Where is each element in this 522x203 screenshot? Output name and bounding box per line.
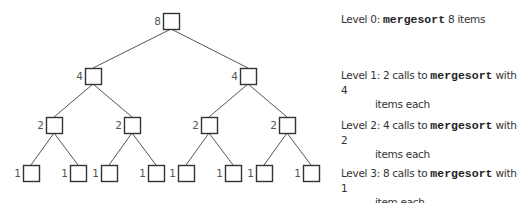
tree-node-label: 1 — [61, 167, 68, 179]
level-2-code: mergesort — [430, 119, 492, 132]
tree-edge — [54, 84, 93, 117]
tree-node-label: 8 — [154, 15, 161, 27]
tree-node-box — [125, 118, 141, 134]
tree-node-box — [47, 118, 63, 134]
level-0-code: mergesort — [383, 13, 445, 26]
level-2-continuation: items each — [341, 147, 522, 161]
tree-node-box — [280, 118, 296, 134]
tree-edge — [93, 29, 171, 68]
level-3-prefix: Level 3: 8 calls to — [341, 167, 430, 179]
tree-edge — [54, 133, 78, 165]
tree-edge — [264, 133, 287, 165]
tree-edge — [31, 133, 54, 165]
tree-node-box — [179, 166, 195, 182]
tree-edge — [109, 133, 132, 165]
tree-node-box — [102, 166, 118, 182]
tree-node-box — [304, 166, 320, 182]
tree-node-label: 1 — [14, 167, 21, 179]
tree-edge — [132, 133, 156, 165]
tree-node-box — [24, 166, 40, 182]
tree-node-label: 2 — [37, 119, 44, 131]
tree-edge — [171, 29, 248, 68]
tree-edge — [248, 84, 287, 117]
tree-node-label: 4 — [76, 70, 83, 82]
level-1-prefix: Level 1: 2 calls to — [341, 69, 430, 81]
tree-edge — [209, 133, 233, 165]
tree-edge — [186, 133, 209, 165]
tree-node-label: 1 — [139, 167, 146, 179]
tree-edge — [287, 133, 311, 165]
level-3-description: Level 3: 8 calls to mergesort with 1 ite… — [341, 166, 522, 203]
tree-node-label: 1 — [216, 167, 223, 179]
level-2-prefix: Level 2: 4 calls to — [341, 119, 430, 131]
tree-edge — [93, 84, 132, 117]
level-2-description: Level 2: 4 calls to mergesort with 2 ite… — [341, 118, 522, 161]
tree-node-label: 1 — [294, 167, 301, 179]
level-3-continuation: item each — [341, 195, 522, 203]
level-0-suffix: 8 items — [445, 13, 485, 25]
tree-node-label: 4 — [231, 70, 238, 82]
level-1-description: Level 1: 2 calls to mergesort with 4 ite… — [341, 68, 522, 111]
tree-node-box — [241, 69, 257, 85]
tree-node-label: 2 — [270, 119, 277, 131]
tree-node-label: 2 — [115, 119, 122, 131]
level-3-code: mergesort — [430, 167, 492, 180]
tree-node-box — [202, 118, 218, 134]
tree-node-label: 2 — [192, 119, 199, 131]
tree-edge — [209, 84, 248, 117]
tree-node-box — [149, 166, 165, 182]
tree-node-label: 1 — [169, 167, 176, 179]
tree-node-box — [71, 166, 87, 182]
level-0-prefix: Level 0: — [341, 13, 383, 25]
level-0-description: Level 0: mergesort 8 items — [341, 12, 485, 27]
tree-node-box — [86, 69, 102, 85]
tree-node-label: 1 — [247, 167, 254, 179]
tree-node-box — [226, 166, 242, 182]
tree-node-box — [257, 166, 273, 182]
level-1-continuation: items each — [341, 97, 522, 111]
level-1-code: mergesort — [430, 69, 492, 82]
tree-node-box — [164, 14, 180, 30]
tree-node-label: 1 — [92, 167, 99, 179]
